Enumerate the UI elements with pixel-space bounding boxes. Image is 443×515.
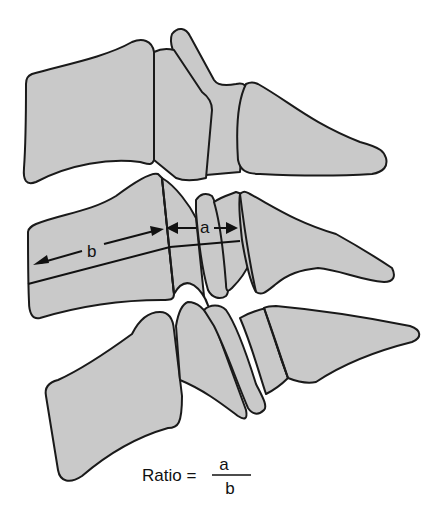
middle-segment	[28, 174, 394, 319]
bottom-right-body	[264, 306, 419, 383]
bottom-segment	[46, 302, 420, 481]
bottom-left-body	[46, 312, 182, 481]
label-b: b	[87, 242, 96, 261]
top-segment	[24, 29, 387, 183]
label-a: a	[200, 218, 210, 237]
middle-left-body	[28, 174, 174, 319]
top-left-body	[24, 40, 154, 183]
top-right-body	[237, 83, 386, 176]
vertebra-ratio-diagram: b a Ratio = a b	[0, 0, 443, 515]
formula-denominator: b	[225, 479, 234, 498]
formula-numerator: a	[219, 455, 229, 474]
ratio-formula: Ratio = a b	[142, 455, 251, 498]
middle-right-body	[239, 192, 394, 294]
formula-lhs: Ratio =	[142, 466, 196, 485]
